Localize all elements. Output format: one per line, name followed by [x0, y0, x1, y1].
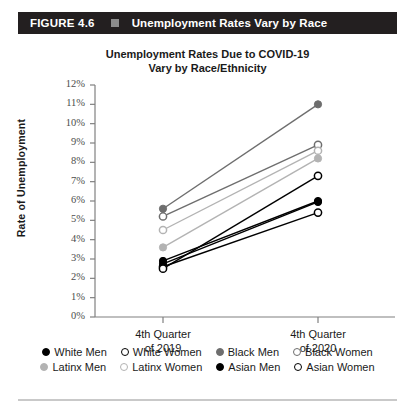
legend-item-label: White Men [54, 346, 107, 358]
x-tick-label-line: 4th Quarter [258, 327, 378, 341]
legend-row-2: Latinx MenLatinx WomenAsian MenAsian Wom… [0, 361, 415, 373]
data-point [159, 213, 166, 220]
legend-item[interactable]: Latinx Women [120, 361, 202, 373]
figure-header-bar: FIGURE 4.6 Unemployment Rates Vary by Ra… [18, 12, 397, 34]
y-tick-label: 2% [45, 271, 85, 282]
legend-item-label: Black Women [305, 346, 373, 358]
legend-item[interactable]: White Men [42, 346, 107, 358]
legend-item[interactable]: White Women [121, 346, 202, 358]
y-tick-label: 11% [45, 97, 85, 108]
data-point [314, 198, 321, 205]
data-point [314, 101, 321, 108]
legend-item[interactable]: Asian Women [294, 361, 374, 373]
legend-item[interactable]: Black Men [216, 346, 279, 358]
data-point [314, 147, 321, 154]
square-bullet-icon [111, 19, 119, 27]
legend-item-label: White Women [133, 346, 202, 358]
legend-item[interactable]: Latinx Men [40, 361, 106, 373]
plot-area: Rate of Unemployment 0%1%2%3%4%5%6%7%8%9… [0, 34, 415, 334]
data-point [314, 209, 321, 216]
filled-circle-icon [42, 348, 50, 356]
series-line [163, 104, 318, 208]
data-point [159, 244, 166, 251]
data-point [159, 265, 166, 272]
open-circle-icon [294, 363, 302, 371]
figure-number: FIGURE 4.6 [30, 17, 95, 29]
data-point [159, 205, 166, 212]
y-tick-label: 0% [45, 310, 85, 321]
open-circle-icon [293, 348, 301, 356]
data-point [314, 172, 321, 179]
legend-item[interactable]: Black Women [293, 346, 373, 358]
legend-item-label: Asian Men [228, 361, 280, 373]
y-tick-label: 4% [45, 233, 85, 244]
filled-circle-icon [216, 363, 224, 371]
figure-title: Unemployment Rates Vary by Race [132, 17, 327, 29]
legend-item-label: Black Men [228, 346, 279, 358]
y-tick-label: 12% [45, 78, 85, 89]
series-line [163, 158, 318, 247]
y-tick-label: 10% [45, 117, 85, 128]
filled-circle-icon [216, 348, 224, 356]
chart-container: Unemployment Rates Due to COVID-19 Vary … [0, 34, 415, 408]
y-tick-label: 6% [45, 194, 85, 205]
x-tick-label-line: 4th Quarter [103, 327, 223, 341]
data-point [314, 155, 321, 162]
legend-item-label: Asian Women [306, 361, 374, 373]
y-tick-label: 5% [45, 213, 85, 224]
y-tick-label: 3% [45, 252, 85, 263]
series-line [163, 201, 318, 261]
chart-legend: White MenWhite WomenBlack MenBlack Women… [0, 346, 415, 376]
legend-row-1: White MenWhite WomenBlack MenBlack Women [0, 346, 415, 358]
legend-item[interactable]: Asian Men [216, 361, 280, 373]
y-tick-label: 1% [45, 291, 85, 302]
bottom-divider [18, 399, 397, 401]
legend-item-label: Latinx Women [132, 361, 202, 373]
legend-item-label: Latinx Men [52, 361, 106, 373]
y-tick-label: 9% [45, 136, 85, 147]
series-line [163, 213, 318, 267]
open-circle-icon [121, 348, 129, 356]
open-circle-icon [120, 363, 128, 371]
y-tick-label: 7% [45, 175, 85, 186]
series-line [163, 145, 318, 217]
y-tick-label: 8% [45, 155, 85, 166]
data-point [159, 226, 166, 233]
filled-circle-icon [40, 363, 48, 371]
